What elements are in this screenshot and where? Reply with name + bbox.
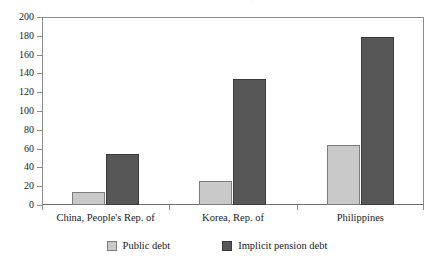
y-tick-label: 40 xyxy=(24,162,34,172)
bar-public-debt xyxy=(327,145,360,205)
y-tick-label: 80 xyxy=(24,125,34,135)
legend-swatch-icon xyxy=(222,241,232,251)
chart-legend: Public debt Implicit pension debt xyxy=(0,240,434,251)
bar-implicit-pension-debt xyxy=(233,79,266,205)
x-tick-mark xyxy=(423,205,424,210)
x-tick-mark xyxy=(169,205,170,210)
y-tick-label: 100 xyxy=(19,106,34,116)
x-tick-mark xyxy=(42,205,43,210)
y-axis: 020406080100120140160180200 xyxy=(0,0,42,206)
bars-layer xyxy=(42,17,424,205)
bar-public-debt xyxy=(199,181,232,205)
bar-group xyxy=(169,17,296,205)
y-tick-label: 180 xyxy=(19,31,34,41)
x-axis-category-label: Korea, Rep. of xyxy=(202,211,264,224)
x-tick-mark xyxy=(297,205,298,210)
y-tick-label: 20 xyxy=(24,181,34,191)
legend-item-implicit-pension-debt: Implicit pension debt xyxy=(222,240,327,251)
chart-title: to GDP in selected countries, 1990/2000 xyxy=(0,0,434,1)
y-tick-label: 0 xyxy=(29,200,34,210)
x-axis-labels: China, People's Rep. ofKorea, Rep. ofPhi… xyxy=(42,211,424,227)
legend-item-public-debt: Public debt xyxy=(107,240,171,251)
legend-label: Implicit pension debt xyxy=(238,240,327,251)
legend-label: Public debt xyxy=(123,240,171,251)
bar-group xyxy=(42,17,169,205)
bar-public-debt xyxy=(72,192,105,205)
bar-group xyxy=(297,17,424,205)
y-tick-label: 200 xyxy=(19,12,34,22)
bar-implicit-pension-debt xyxy=(106,154,139,205)
x-axis-category-label: China, People's Rep. of xyxy=(56,211,154,224)
bar-implicit-pension-debt xyxy=(361,37,394,205)
y-tick-label: 160 xyxy=(19,50,34,60)
y-tick-label: 60 xyxy=(24,144,34,154)
y-tick-label: 120 xyxy=(19,87,34,97)
bar-chart: to GDP in selected countries, 1990/2000 … xyxy=(0,0,434,271)
x-axis-category-label: Philippines xyxy=(337,211,384,224)
legend-swatch-icon xyxy=(107,241,117,251)
y-tick-label: 140 xyxy=(19,68,34,78)
